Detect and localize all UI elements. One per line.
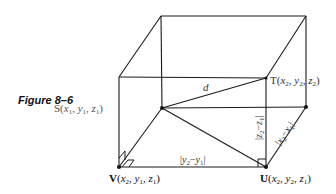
y-diff-label: |y2−y1|	[180, 154, 206, 167]
point-label-V: V(x2, y1, z1)	[109, 172, 160, 186]
point-label-U: U(x2, y2, z1)	[260, 172, 311, 186]
x-diff-label: |x2−x1|	[273, 120, 298, 148]
box-diagram: S(x1, y1, z1) T(x2, y2, z2) V(x2, y1, z1…	[0, 0, 336, 194]
z-diff-label: |z2−z1|	[253, 116, 266, 140]
vertex-dots	[117, 76, 308, 169]
distance-label-d: d	[203, 81, 209, 93]
point-label-S: S(x1, y1, z1)	[54, 102, 103, 116]
point-label-T: T(x2, y2, z2)	[270, 74, 320, 88]
